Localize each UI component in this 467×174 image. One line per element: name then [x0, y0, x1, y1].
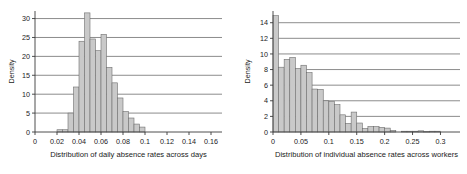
chart-panel-individual-absence: 00.050.10.150.20.250.302468101214Density…	[234, 0, 467, 174]
x-tick-label: 0.06	[94, 137, 108, 146]
y-tick-label: 20	[22, 52, 30, 61]
x-axis-title: Distribution of daily absence rates acro…	[50, 150, 207, 159]
histogram-bar	[79, 41, 85, 132]
histogram-bar	[85, 13, 91, 132]
histogram-bar	[306, 73, 312, 132]
y-tick-label: 6	[264, 81, 268, 90]
x-tick-label: 0.05	[293, 137, 307, 146]
x-tick-label: 0.1	[140, 137, 150, 146]
histogram-bar	[96, 51, 102, 132]
x-tick-label: 0	[271, 137, 275, 146]
y-tick-label: 25	[22, 33, 30, 42]
histogram-bar	[118, 98, 124, 132]
x-tick-label: 0.15	[349, 137, 363, 146]
two-panel-histogram-figure: 00.020.040.060.080.10.120.140.1605101520…	[0, 0, 467, 174]
histogram-bar	[345, 123, 351, 132]
y-tick-label: 4	[264, 96, 268, 105]
gridlines	[35, 19, 222, 114]
histogram-bar	[112, 83, 118, 132]
histogram-bar	[140, 127, 146, 132]
y-axis-ticks: 051015202530	[22, 14, 35, 136]
y-axis-ticks: 02468101214	[260, 18, 273, 136]
y-axis-title: Density	[7, 59, 16, 83]
x-axis-title: Distribution of individual absence rates…	[274, 150, 457, 159]
histogram-bar	[367, 127, 373, 132]
histogram-bar	[107, 67, 113, 132]
y-tick-label: 2	[264, 112, 268, 121]
y-tick-label: 8	[264, 65, 268, 74]
x-tick-label: 0.14	[182, 137, 196, 146]
y-axis-title: Density	[243, 59, 252, 83]
histogram-bars	[57, 13, 145, 132]
y-tick-label: 0	[264, 128, 268, 137]
histogram-bar	[134, 124, 140, 132]
histogram-bar	[384, 128, 390, 132]
y-tick-label: 12	[260, 34, 268, 43]
y-tick-label: 15	[22, 71, 30, 80]
histogram-bar	[339, 115, 345, 132]
x-tick-label: 0	[33, 137, 37, 146]
chart-panel-daily-absence: 00.020.040.060.080.10.120.140.1605101520…	[0, 0, 234, 174]
histogram-bar	[101, 34, 107, 132]
x-tick-label: 0.04	[72, 137, 86, 146]
histogram-bar	[312, 89, 318, 132]
histogram-bar	[351, 112, 357, 132]
histogram-bar	[379, 127, 385, 132]
histogram-bar	[273, 16, 279, 132]
x-tick-label: 0.3	[435, 137, 445, 146]
histogram-bar	[323, 101, 329, 132]
daily-absence-histogram-svg: 00.020.040.060.080.10.120.140.1605101520…	[0, 0, 233, 174]
histogram-bar	[90, 39, 96, 132]
histogram-bar	[74, 87, 80, 132]
histogram-bar	[289, 57, 295, 132]
x-tick-label: 0.1	[323, 137, 333, 146]
histogram-bar	[328, 102, 334, 132]
y-tick-label: 0	[26, 128, 30, 137]
histogram-bar	[278, 67, 284, 132]
y-tick-label: 10	[260, 50, 268, 59]
histogram-bar	[362, 128, 368, 132]
histogram-bar	[317, 89, 323, 132]
histogram-bar	[295, 68, 301, 132]
x-axis-ticks: 00.020.040.060.080.10.120.140.16	[33, 132, 218, 146]
histogram-bar	[68, 113, 74, 132]
histogram-bar	[373, 127, 379, 132]
x-tick-label: 0.25	[405, 137, 419, 146]
y-tick-label: 14	[260, 18, 268, 27]
individual-absence-histogram-svg: 00.050.10.150.20.250.302468101214Density…	[234, 0, 467, 174]
x-tick-label: 0.08	[116, 137, 130, 146]
x-tick-label: 0.2	[379, 137, 389, 146]
x-axis-ticks: 00.050.10.150.20.250.3	[271, 132, 445, 146]
x-tick-label: 0.16	[204, 137, 218, 146]
x-tick-label: 0.12	[160, 137, 174, 146]
histogram-bar	[129, 118, 135, 132]
y-tick-label: 5	[26, 109, 30, 118]
histogram-bars	[273, 16, 440, 132]
histogram-bar	[334, 105, 340, 132]
x-tick-label: 0.02	[50, 137, 64, 146]
histogram-bar	[123, 112, 129, 132]
y-tick-label: 30	[22, 14, 30, 23]
histogram-bar	[300, 65, 306, 132]
histogram-bar	[284, 59, 290, 132]
histogram-bar	[356, 123, 362, 132]
y-tick-label: 10	[22, 90, 30, 99]
